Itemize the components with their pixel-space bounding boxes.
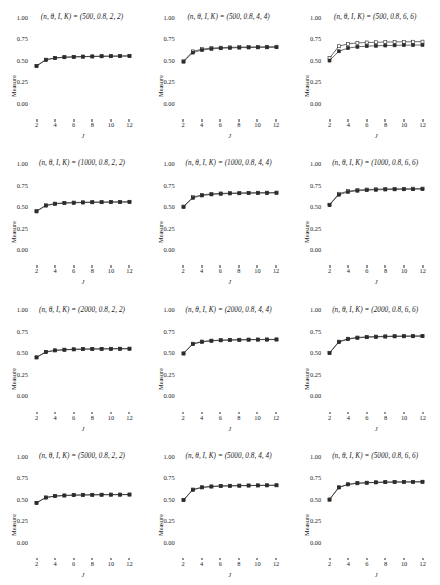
series-container xyxy=(30,457,136,543)
filled-square-marker xyxy=(275,338,278,341)
y-axis-label: Measure xyxy=(303,36,313,86)
filled-square-marker xyxy=(35,210,38,213)
filled-square-marker xyxy=(191,342,194,345)
filled-square-marker xyxy=(365,45,368,48)
y-tick-label: 1.00 xyxy=(163,454,174,460)
filled-square-marker xyxy=(328,351,331,354)
x-tick-label: 2 xyxy=(328,415,331,421)
x-tick-label: 12 xyxy=(126,122,132,128)
x-tick-label: 4 xyxy=(53,268,56,274)
y-tick-label: 0.00 xyxy=(310,393,321,399)
y-axis-label-text: Measure xyxy=(10,500,17,550)
x-tick-label: 4 xyxy=(200,122,203,128)
x-axis-ticks: 24681012 xyxy=(30,268,140,278)
filled-square-marker xyxy=(228,46,231,49)
x-tick-label: 8 xyxy=(384,122,387,128)
filled-square-marker xyxy=(35,65,38,68)
filled-square-marker xyxy=(119,201,122,204)
x-tick-label: 8 xyxy=(237,561,240,567)
y-axis-label: Measure xyxy=(303,182,313,232)
chart-panel: (n, θ, I, K) = (1000, 0.8, 4, 4)1.000.75… xyxy=(147,146,294,292)
filled-square-marker xyxy=(200,49,203,52)
filled-square-marker xyxy=(256,338,259,341)
filled-square-marker xyxy=(375,481,378,484)
series-container xyxy=(177,457,283,543)
y-axis-label: Measure xyxy=(303,329,313,379)
plot-area xyxy=(30,457,136,543)
filled-square-marker xyxy=(128,201,131,204)
x-tick-label: 12 xyxy=(273,122,279,128)
chart-panel: (n, θ, I, K) = (500, 0.8, 4, 4)1.000.750… xyxy=(147,0,294,146)
filled-square-marker xyxy=(356,482,359,485)
series-container xyxy=(323,311,429,397)
chart-panel: (n, θ, I, K) = (2000, 0.8, 6, 6)1.000.75… xyxy=(293,293,440,439)
filled-square-marker xyxy=(35,356,38,359)
x-tick-label: 4 xyxy=(200,268,203,274)
x-tick-label: 8 xyxy=(237,268,240,274)
filled-square-marker xyxy=(200,194,203,197)
x-tick-label: 4 xyxy=(53,415,56,421)
series-container xyxy=(177,164,283,250)
plot-area xyxy=(177,18,283,104)
filled-square-marker xyxy=(356,336,359,339)
plot-area xyxy=(323,164,429,250)
filled-square-marker xyxy=(347,191,350,194)
filled-square-marker xyxy=(328,59,331,62)
filled-square-marker xyxy=(328,204,331,207)
chart-panel: (n, θ, I, K) = (2000, 0.8, 2, 2)1.000.75… xyxy=(0,293,147,439)
filled-square-marker xyxy=(209,47,212,50)
x-tick-label: 12 xyxy=(126,561,132,567)
panel-grid: (n, θ, I, K) = (500, 0.8, 2, 2)1.000.750… xyxy=(0,0,440,585)
filled-square-marker xyxy=(356,190,359,193)
y-tick-label: 1.00 xyxy=(310,161,321,167)
y-axis-label: Measure xyxy=(157,36,167,86)
filled-square-marker xyxy=(100,493,103,496)
series-line xyxy=(330,481,423,499)
x-axis-label: J xyxy=(375,425,378,432)
filled-square-marker xyxy=(82,201,85,204)
x-tick-label: 4 xyxy=(200,415,203,421)
y-axis-label-text: Measure xyxy=(303,354,310,404)
filled-square-marker xyxy=(44,204,47,207)
filled-square-marker xyxy=(247,484,250,487)
x-tick-label: 12 xyxy=(273,561,279,567)
filled-square-marker xyxy=(256,484,259,487)
y-tick-label: 1.00 xyxy=(310,307,321,313)
filled-square-marker xyxy=(100,201,103,204)
x-tick-label: 2 xyxy=(35,122,38,128)
y-axis-label-text: Measure xyxy=(157,500,164,550)
y-axis-label: Measure xyxy=(157,329,167,379)
filled-square-marker xyxy=(403,334,406,337)
y-tick-label: 1.00 xyxy=(17,307,28,313)
x-axis-ticks: 24681012 xyxy=(30,415,140,425)
filled-square-marker xyxy=(275,46,278,49)
y-axis-label: Measure xyxy=(10,36,20,86)
x-tick-label: 6 xyxy=(72,415,75,421)
filled-square-marker xyxy=(347,337,350,340)
x-tick-label: 10 xyxy=(108,561,114,567)
series-container xyxy=(30,311,136,397)
x-axis-ticks: 24681012 xyxy=(177,268,287,278)
filled-square-marker xyxy=(403,188,406,191)
filled-square-marker xyxy=(119,55,122,58)
series-container xyxy=(177,18,283,104)
filled-square-marker xyxy=(72,347,75,350)
x-axis-label: J xyxy=(82,278,85,285)
open-square-marker xyxy=(393,40,396,43)
filled-square-marker xyxy=(403,44,406,47)
series-line xyxy=(330,482,423,500)
x-tick-label: 6 xyxy=(72,561,75,567)
series-container xyxy=(323,18,429,104)
x-tick-label: 2 xyxy=(328,561,331,567)
filled-square-marker xyxy=(412,480,415,483)
filled-square-marker xyxy=(44,58,47,61)
filled-square-marker xyxy=(421,334,424,337)
y-tick-label: 1.00 xyxy=(310,454,321,460)
filled-square-marker xyxy=(100,55,103,58)
y-tick-label: 0.00 xyxy=(163,540,174,546)
chart-panel: (n, θ, I, K) = (5000, 0.8, 4, 4)1.000.75… xyxy=(147,439,294,585)
y-tick-label: 1.00 xyxy=(17,454,28,460)
filled-square-marker xyxy=(347,47,350,50)
filled-square-marker xyxy=(182,206,185,209)
filled-square-marker xyxy=(54,348,57,351)
